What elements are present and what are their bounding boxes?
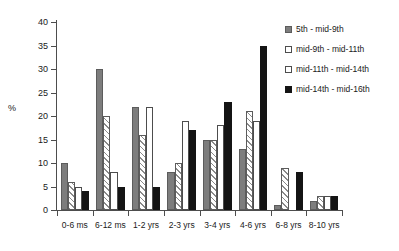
bar-chart: % 0510152025303540 0-6 ms6-12 ms1-2 yrs2… [0,0,399,251]
bar [324,196,331,210]
y-axis-tick-label: 0 [18,205,48,215]
legend-item: mid-14th - mid-16th [285,80,397,98]
legend-item-label: mid-11th - mid-14th [296,65,369,74]
bar [139,135,146,210]
bar [61,163,68,210]
x-axis-tick [200,211,201,216]
legend-item-label: mid-14th - mid-16th [296,85,370,94]
x-axis-tick [164,211,165,216]
bar [281,168,288,210]
x-axis-tick-label: 3-4 yrs [204,220,230,230]
x-axis-tick-label: 8-10 yrs [309,220,340,230]
y-axis-tick-label: 15 [18,135,48,145]
bar [146,107,153,210]
y-axis-tick-label: 5 [18,182,48,192]
legend-swatch-icon [285,46,292,53]
bar [317,196,324,210]
y-axis-tick-label: 20 [18,111,48,121]
x-axis-tick [342,211,343,216]
bar [331,196,338,210]
y-axis-tick-label: 40 [18,17,48,27]
bar [103,116,110,210]
legend-item: mid-9th - mid-11th [285,40,397,58]
bar [310,201,317,210]
bar [296,172,303,210]
bar [182,121,189,210]
y-axis-tick-label: 25 [18,88,48,98]
x-axis-tick-label: 2-3 yrs [169,220,195,230]
bar [189,130,196,210]
chart-legend: 5th - mid-9thmid-9th - mid-11thmid-11th … [285,20,397,100]
bar [96,69,103,210]
bar [118,187,125,211]
bar [68,182,75,210]
bar [175,163,182,210]
y-axis-tick-label: 35 [18,41,48,51]
x-axis-tick-label: 6-12 ms [95,220,126,230]
bar [217,125,224,210]
x-axis-tick-label: 6-8 yrs [276,220,302,230]
y-axis-title: % [8,103,16,113]
legend-item-label: mid-9th - mid-11th [296,45,364,54]
bar [110,172,117,210]
bar [82,191,89,210]
legend-item: mid-11th - mid-14th [285,60,397,78]
x-axis-tick-label: 4-6 yrs [240,220,266,230]
legend-swatch-icon [285,26,292,33]
bar [203,140,210,211]
bar [253,121,260,210]
bar [210,140,217,211]
legend-item-label: 5th - mid-9th [296,25,344,34]
bar [274,205,281,210]
x-axis-tick-label: 1-2 yrs [133,220,159,230]
bar [224,102,231,210]
bar [239,149,246,210]
bar [132,107,139,210]
x-axis-tick [235,211,236,216]
legend-item: 5th - mid-9th [285,20,397,38]
y-axis-tick-label: 10 [18,158,48,168]
legend-swatch-icon [285,66,292,73]
bar [75,187,82,211]
bar [260,46,267,211]
y-axis-tick-label: 30 [18,64,48,74]
bar [246,111,253,210]
x-axis-tick [271,211,272,216]
x-axis-tick [306,211,307,216]
x-axis-tick [93,211,94,216]
bar [153,187,160,211]
x-axis-tick-label: 0-6 ms [62,220,88,230]
x-axis-tick [57,211,58,216]
x-axis-tick [128,211,129,216]
legend-swatch-icon [285,86,292,93]
bar [167,172,174,210]
